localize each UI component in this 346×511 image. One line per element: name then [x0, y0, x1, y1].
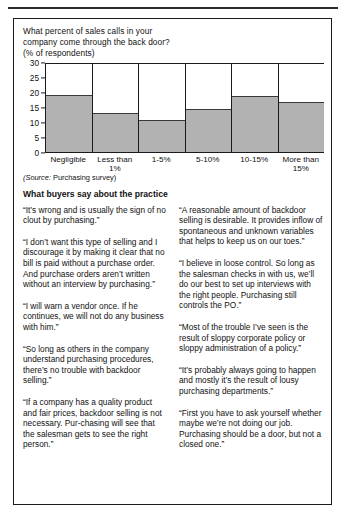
section-heading: What buyers say about the practice	[23, 189, 324, 200]
chart-title-line-0: What percent of sales calls in your	[23, 26, 324, 37]
bar-cell-5	[279, 63, 325, 152]
x-axis-label-line: More than	[279, 155, 324, 165]
x-axis-labels: NegligibleLess than1%1-5%5-10%10-15%More…	[45, 155, 324, 174]
x-axis-label-line: 15%	[279, 164, 324, 174]
chart-source: (Source: Purchasing survey)	[23, 173, 324, 182]
bar-0	[46, 95, 92, 152]
bar-cell-2	[139, 63, 186, 152]
bar-2	[139, 120, 185, 152]
y-tick-label-0: 0	[34, 148, 39, 156]
chart-title-line-2: (% of respondents)	[23, 48, 324, 59]
bar-cell-0	[46, 63, 93, 152]
x-axis-label-line: 5-10%	[186, 155, 231, 165]
bar-1	[93, 113, 139, 152]
y-tick-label-10: 10	[30, 118, 39, 126]
x-axis-label-line: 10-15%	[232, 155, 277, 165]
x-axis-label-line: Less than	[93, 155, 138, 165]
bar-cell-4	[232, 63, 279, 152]
x-axis-label-line: Negligible	[46, 155, 91, 165]
source-prefix: (Source:	[23, 173, 51, 182]
quote-left-1: “I don’t want this type of selling and I…	[23, 237, 168, 290]
quote-right-2: “Most of the trouble I’ve seen is the re…	[179, 322, 324, 354]
exhibit-page: What percent of sales calls in yourcompa…	[0, 0, 346, 511]
y-tick-label-30: 30	[30, 58, 39, 66]
x-axis-label-4: 10-15%	[231, 155, 278, 174]
bar-4	[232, 96, 278, 152]
quote-left-4: “If a company has a quality product and …	[23, 397, 168, 450]
quote-left-3: “So long as others in the company unders…	[23, 344, 168, 386]
bar-cell-3	[186, 63, 233, 152]
y-tick-label-5: 5	[34, 133, 39, 141]
x-axis-label-2: 1-5%	[138, 155, 185, 174]
x-axis-label-0: Negligible	[45, 155, 92, 174]
quote-column-right: “A reasonable amount of backdoor selling…	[179, 205, 324, 450]
bar-cell-1	[93, 63, 140, 152]
x-axis-label-line: 1%	[93, 164, 138, 174]
bar-series	[46, 63, 324, 152]
x-axis-label-5: More than15%	[278, 155, 325, 174]
quote-left-0: “It’s wrong and is usually the sign of n…	[23, 205, 168, 226]
quote-right-4: “First you have to ask yourself whether …	[179, 408, 324, 450]
y-tick-label-25: 25	[30, 73, 39, 81]
x-axis-label-1: Less than1%	[92, 155, 139, 174]
y-tick-label-20: 20	[30, 88, 39, 96]
y-tick-label-15: 15	[30, 103, 39, 111]
top-divider-rule	[8, 7, 338, 9]
quote-left-2: “I will warn a vendor once. If he contin…	[23, 301, 168, 333]
exhibit-box: What percent of sales calls in yourcompa…	[13, 18, 332, 505]
source-text: Purchasing survey)	[53, 173, 116, 182]
chart-plot-area: 051015202530 NegligibleLess than1%1-5%5-…	[23, 63, 324, 171]
bar-5	[279, 102, 325, 152]
x-axis-label-line: 1-5%	[139, 155, 184, 165]
chart-title: What percent of sales calls in yourcompa…	[23, 26, 324, 60]
bar-3	[186, 109, 232, 152]
quote-right-3: “It’s probably always going to happen an…	[179, 365, 324, 397]
x-axis-label-3: 5-10%	[185, 155, 232, 174]
quote-right-1: “I believe in loose control. So long as …	[179, 258, 324, 311]
plot-frame	[45, 63, 324, 153]
quote-column-left: “It’s wrong and is usually the sign of n…	[23, 205, 168, 450]
chart-title-line-1: company come through the back door?	[23, 37, 324, 48]
quote-columns: “It’s wrong and is usually the sign of n…	[23, 205, 324, 450]
exhibit-inner: What percent of sales calls in yourcompa…	[23, 26, 324, 450]
y-axis: 051015202530	[23, 63, 45, 153]
quote-right-0: “A reasonable amount of backdoor selling…	[179, 205, 324, 247]
